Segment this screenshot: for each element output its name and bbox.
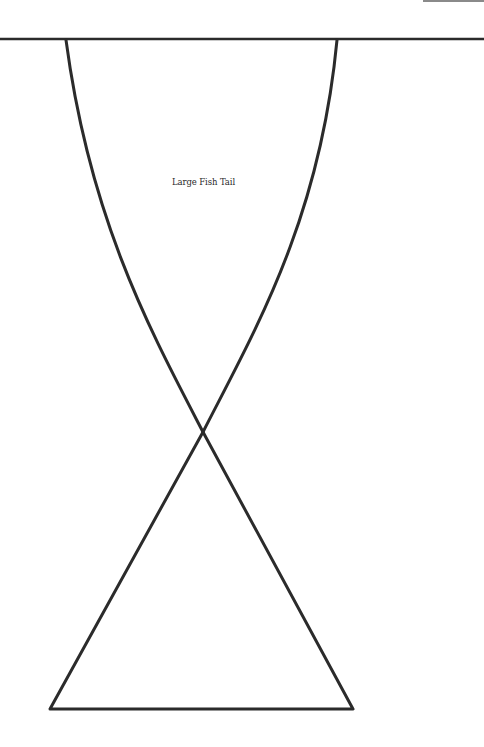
- fish-tail-template: [0, 0, 484, 747]
- right-tail-curve: [203, 40, 337, 432]
- left-tail-curve: [66, 40, 203, 432]
- diagram-title: Large Fish Tail: [0, 177, 407, 187]
- tail-fin-triangle: [50, 432, 353, 709]
